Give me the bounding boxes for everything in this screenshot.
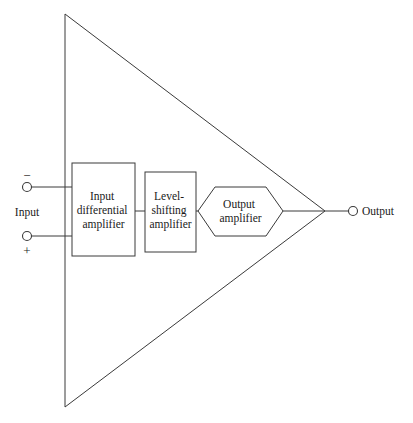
- diagram-canvas: − + Input Input differential amplifier L…: [0, 0, 413, 423]
- block2-line1: Level-: [154, 190, 184, 202]
- minus-sign-label: −: [23, 168, 30, 183]
- block1-line1: Input: [90, 190, 115, 203]
- output-label: Output: [362, 205, 395, 218]
- block3-line2: amplifier: [219, 212, 261, 225]
- block2-line3: amplifier: [149, 218, 191, 231]
- plus-sign-label: +: [23, 243, 30, 258]
- opamp-block-diagram: − + Input Input differential amplifier L…: [0, 0, 413, 423]
- noninverting-input-terminal[interactable]: [23, 232, 32, 241]
- block2-line2: shifting: [151, 204, 186, 217]
- output-amplifier-label: Output amplifier: [219, 198, 261, 225]
- level-shifting-amplifier-label: Level- shifting amplifier: [149, 190, 191, 231]
- block1-line3: amplifier: [82, 218, 124, 231]
- input-label: Input: [15, 206, 40, 219]
- output-terminal[interactable]: [349, 207, 358, 216]
- inverting-input-terminal[interactable]: [23, 183, 32, 192]
- block1-line2: differential: [77, 204, 128, 216]
- block3-line1: Output: [223, 198, 256, 211]
